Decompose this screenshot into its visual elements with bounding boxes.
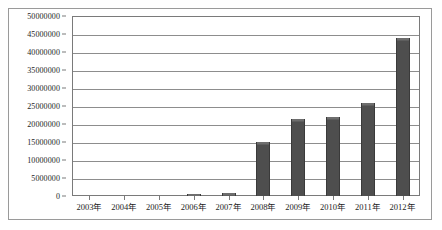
y-axis-tick bbox=[62, 16, 66, 17]
y-axis-tick-label: 40000000 bbox=[27, 48, 60, 57]
x-axis-tick bbox=[298, 196, 299, 200]
y-axis-tick bbox=[62, 106, 66, 107]
y-axis-tick bbox=[62, 142, 66, 143]
x-axis-tick-label: 2011年 bbox=[355, 200, 381, 212]
y-axis-tick-label: 45000000 bbox=[27, 30, 60, 39]
y-axis-tick bbox=[62, 88, 66, 89]
gridline bbox=[73, 143, 419, 144]
y-axis-tick-label: 25000000 bbox=[27, 102, 60, 111]
x-axis-tick-label: 2005年 bbox=[146, 200, 172, 212]
gridline bbox=[73, 179, 419, 180]
y-axis-tick-label: 20000000 bbox=[27, 120, 60, 129]
x-axis-tick-label: 2009年 bbox=[285, 200, 311, 212]
y-axis-tick-label: 10000000 bbox=[27, 156, 60, 165]
x-axis-tick bbox=[89, 196, 90, 200]
x-axis-tick bbox=[194, 196, 195, 200]
gridline bbox=[73, 125, 419, 126]
y-axis: 0500000010000000150000002000000025000000… bbox=[0, 16, 66, 196]
y-axis-tick bbox=[62, 52, 66, 53]
y-axis-tick bbox=[62, 70, 66, 71]
y-axis-tick bbox=[62, 160, 66, 161]
x-axis-tick-label: 2007年 bbox=[216, 200, 242, 212]
y-axis-tick bbox=[62, 124, 66, 125]
x-axis-tick-label: 2006年 bbox=[181, 200, 207, 212]
x-axis-tick bbox=[229, 196, 230, 200]
x-axis: 2003年2004年2005年2006年2007年2008年2009年2010年… bbox=[72, 200, 420, 220]
y-axis-tick-label: 50000000 bbox=[27, 12, 60, 21]
y-axis-tick bbox=[62, 178, 66, 179]
x-axis-tick bbox=[159, 196, 160, 200]
y-axis-tick-label: 35000000 bbox=[27, 66, 60, 75]
gridline bbox=[73, 35, 419, 36]
y-axis-tick-label: 15000000 bbox=[27, 138, 60, 147]
y-axis-tick-label: 30000000 bbox=[27, 84, 60, 93]
plot-area bbox=[72, 16, 420, 196]
x-axis-tick bbox=[333, 196, 334, 200]
gridline bbox=[73, 53, 419, 54]
x-axis-tick bbox=[263, 196, 264, 200]
gridline bbox=[73, 161, 419, 162]
chart-screenshot: 0500000010000000150000002000000025000000… bbox=[0, 0, 442, 230]
gridlines bbox=[73, 17, 419, 195]
gridline bbox=[73, 107, 419, 108]
x-axis-tick bbox=[368, 196, 369, 200]
gridline bbox=[73, 71, 419, 72]
y-axis-tick bbox=[62, 196, 66, 197]
y-axis-tick bbox=[62, 34, 66, 35]
x-axis-tick-label: 2008年 bbox=[250, 200, 276, 212]
gridline bbox=[73, 89, 419, 90]
x-axis-tick bbox=[124, 196, 125, 200]
x-axis-tick-label: 2010年 bbox=[320, 200, 346, 212]
y-axis-tick-label: 5000000 bbox=[31, 174, 60, 183]
y-axis-tick-label: 0 bbox=[56, 192, 60, 201]
x-axis-tick bbox=[403, 196, 404, 200]
x-axis-tick-label: 2012年 bbox=[390, 200, 416, 212]
x-axis-tick-label: 2004年 bbox=[111, 200, 137, 212]
x-axis-tick-label: 2003年 bbox=[76, 200, 102, 212]
